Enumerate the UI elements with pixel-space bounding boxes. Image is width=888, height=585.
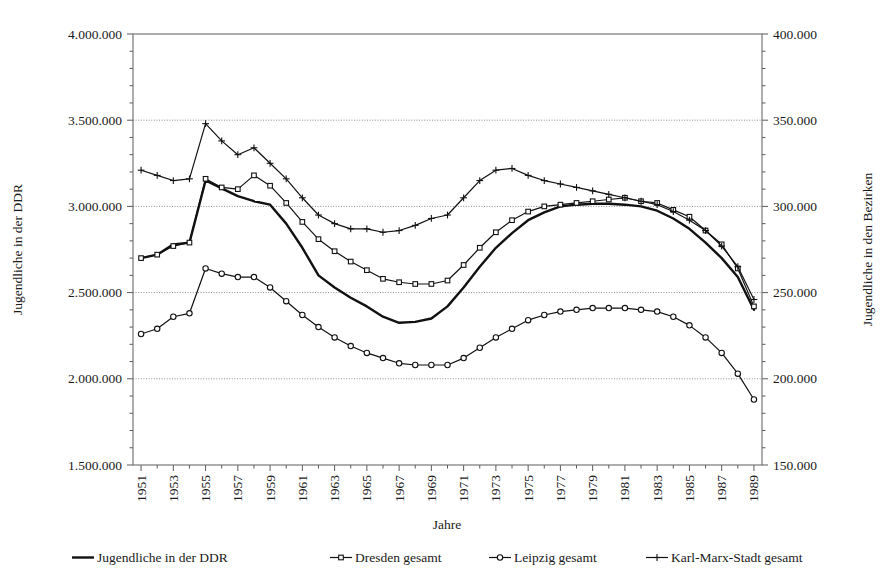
data-point-marker [171,314,176,319]
legend-label: Karl-Marx-Stadt gesamt [671,550,803,565]
legend-item-0: Jugendliche in der DDR [72,550,228,565]
x-axis-tick-label: 1971 [456,475,471,502]
data-point-marker [413,282,418,287]
x-axis-tick-labels: 1951195319551957195919611963196519671969… [134,475,762,502]
data-point-marker [703,335,708,340]
y-axis-right-tick-label: 250.000 [773,285,817,300]
data-point-marker [316,237,321,242]
chart-figure: 1.500.0002.000.0002.500.0003.000.0003.50… [0,0,888,585]
x-axis-tick-label: 1955 [198,475,213,502]
data-point-marker [236,187,241,192]
data-point-marker [139,256,144,261]
data-point-marker [364,350,369,355]
data-point-marker [719,350,724,355]
y-axis-left-tick-label: 1.500.000 [68,458,122,473]
data-point-marker [203,177,208,182]
data-point-marker [171,244,176,249]
legend-item-2: Leipzig gesamt [489,550,597,565]
x-axis-tick-label: 1963 [327,475,342,502]
data-point-marker [155,252,160,257]
data-point-marker [365,268,370,273]
series-line [141,124,754,300]
data-point-marker [558,202,563,207]
series-2 [138,266,756,402]
y-axis-left-tick-labels: 1.500.0002.000.0002.500.0003.000.0003.50… [68,27,122,473]
legend-label: Jugendliche in der DDR [97,550,228,565]
data-point-marker [284,299,289,304]
y-axis-right-tick-label: 350.000 [773,113,817,128]
series-line [141,268,754,399]
x-axis-tick-label: 1961 [295,475,310,502]
data-point-marker [477,245,482,250]
x-axis-title: Jahre [433,517,461,532]
line-chart: 1.500.0002.000.0002.500.0003.000.0003.50… [0,0,888,585]
data-point-marker [396,361,401,366]
plot-area-frame [133,34,762,465]
axis-tickmarks [127,34,768,471]
data-point-marker [300,220,305,225]
chart-legend: Jugendliche in der DDRDresden gesamtLeip… [72,550,803,565]
data-point-marker [751,397,756,402]
y-axis-left-tick-label: 3.000.000 [68,199,122,214]
data-point-marker [381,277,386,282]
data-point-marker [332,249,337,254]
data-point-marker [654,309,659,314]
y-axis-left-tick-label: 3.500.000 [68,113,122,128]
y-axis-left-title: Jugendliche in der DDR [10,184,25,315]
data-point-marker [493,335,498,340]
data-point-marker [219,271,224,276]
data-point-marker [752,304,757,309]
y-axis-right-tick-labels: 150.000200.000250.000300.000350.000400.0… [773,27,817,473]
data-point-marker [348,343,353,348]
data-point-marker [219,185,224,190]
legend-item-1: Dresden gesamt [330,550,442,565]
series-0 [141,181,754,323]
data-point-marker [606,305,611,310]
x-axis-tick-label: 1957 [230,475,245,502]
data-point-marker [509,326,514,331]
x-axis-tick-label: 1969 [424,475,439,502]
data-point-marker [203,266,208,271]
x-axis-tick-label: 1989 [746,475,761,502]
data-point-marker [558,309,563,314]
data-point-marker [461,263,466,268]
data-point-marker [477,345,482,350]
x-axis-tick-label: 1979 [585,475,600,502]
data-point-marker [316,324,321,329]
data-point-marker [413,362,418,367]
x-axis-tick-label: 1967 [392,475,407,502]
data-point-marker [429,282,434,287]
x-axis-tick-label: 1981 [617,475,632,502]
data-point-marker [574,201,579,206]
data-point-marker [252,173,257,178]
x-axis-tick-label: 1965 [359,475,374,502]
legend-label: Leipzig gesamt [514,550,597,565]
data-point-marker [638,307,643,312]
legend-item-3: Karl-Marx-Stadt gesamt [646,550,803,565]
data-point-marker [235,274,240,279]
x-axis-tick-label: 1977 [553,475,568,502]
data-point-marker [380,355,385,360]
x-axis-tick-label: 1959 [263,475,278,502]
x-axis-tick-label: 1987 [714,475,729,502]
data-point-marker [268,183,273,188]
y-axis-right-tick-label: 300.000 [773,199,817,214]
data-point-marker [187,311,192,316]
x-axis-tick-label: 1983 [650,475,665,502]
y-axis-right-title: Jugendliche in den Bezirken [860,173,875,327]
data-point-marker [251,274,256,279]
data-point-marker [445,278,450,283]
y-axis-left-tick-label: 2.500.000 [68,285,122,300]
data-point-marker [348,259,353,264]
data-point-marker [574,307,579,312]
data-point-marker [606,197,611,202]
data-point-marker [187,240,192,245]
data-point-marker [429,362,434,367]
y-axis-right-tick-label: 400.000 [773,27,817,42]
data-point-marker [397,280,402,285]
data-point-marker [542,204,547,209]
gridlines [133,120,762,379]
data-series-group [138,120,758,402]
data-point-marker [445,362,450,367]
data-point-marker [284,201,289,206]
